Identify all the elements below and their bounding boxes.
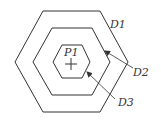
p1-label: P1 [63, 46, 78, 59]
nested-hexagon-diagram: P1 D1 D2 D3 [0, 0, 161, 124]
d1-label: D1 [109, 18, 126, 31]
d2-label: D2 [132, 66, 149, 79]
d3-label: D3 [117, 96, 134, 109]
center-cross-icon [65, 58, 77, 70]
